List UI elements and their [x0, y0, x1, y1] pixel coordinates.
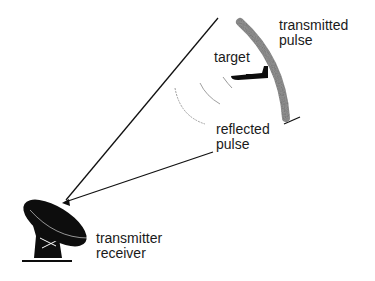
reflect-beam-line [68, 152, 213, 201]
reflected-pulse-label: reflected pulse [216, 122, 270, 152]
reflected-pulse-arc-1 [223, 77, 232, 88]
target-label: target [214, 50, 250, 65]
transmitter-receiver-label: transmitter receiver [96, 231, 162, 261]
transmit-beam-line [66, 18, 218, 200]
transmitted-pulse-label-line2: pulse [279, 33, 348, 48]
reflected-pulse-label-line1: reflected [216, 122, 270, 137]
airplane-icon [231, 66, 268, 80]
radar-dish-icon [16, 190, 94, 262]
transmitted-pulse-label: transmitted pulse [279, 18, 348, 48]
reflected-pulse-label-line2: pulse [216, 137, 270, 152]
transmitted-pulse-label-line1: transmitted [279, 18, 348, 33]
transmitter-receiver-label-line1: transmitter [96, 231, 162, 246]
reflected-pulse-arc-3 [175, 88, 205, 124]
transmitter-receiver-label-line2: receiver [96, 246, 162, 261]
reflected-pulse-arc-2 [200, 83, 220, 104]
